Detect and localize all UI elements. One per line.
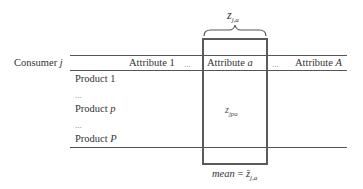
curly-brace-icon xyxy=(203,25,267,37)
row-label-product-1: Product 1 xyxy=(75,73,116,85)
equals-sign: = xyxy=(237,168,243,179)
column-header-ellipsis-2: ... xyxy=(272,58,279,70)
cell-value-label: zjpa xyxy=(225,104,238,120)
row-label-ellipsis-1: ... xyxy=(75,89,82,101)
column-header-attribute-1: Attribute 1 xyxy=(129,57,175,69)
row-label-product-p: Product p xyxy=(75,103,116,115)
consumer-text: Consumer xyxy=(14,57,57,68)
table-bottom-rule xyxy=(70,147,347,148)
attribute-text: Attribute xyxy=(295,57,333,68)
z-subscript: j,a xyxy=(232,16,239,24)
product-text: Product xyxy=(75,73,108,84)
attribute-text: Attribute xyxy=(129,57,167,68)
column-header-attribute-a: Attribute a xyxy=(207,57,253,69)
column-header-ellipsis-1: ... xyxy=(184,58,191,70)
column-header-attribute-A: Attribute A xyxy=(295,57,342,69)
table-header-rule xyxy=(70,70,347,71)
z-subscript: jpa xyxy=(229,110,238,118)
row-label-product-P: Product P xyxy=(75,133,117,145)
attribute-index: a xyxy=(248,57,253,68)
consumer-label: Consumer j xyxy=(14,57,63,69)
attribute-index: A xyxy=(336,57,342,68)
mean-text: mean xyxy=(212,168,235,179)
z-bar-subscript: j,a xyxy=(250,174,257,182)
mean-label: mean = z̄j,a xyxy=(212,168,257,184)
attribute-text: Attribute xyxy=(207,57,245,68)
column-aggregate-label: zj,a xyxy=(227,9,239,26)
attribute-index: 1 xyxy=(170,57,175,68)
product-index: 1 xyxy=(110,73,115,84)
row-label-ellipsis-2: ... xyxy=(75,119,82,131)
consumer-index: j xyxy=(60,57,63,68)
table-top-rule xyxy=(70,55,347,56)
product-text: Product xyxy=(75,103,108,114)
product-index: P xyxy=(110,133,116,144)
product-text: Product xyxy=(75,133,108,144)
product-index: p xyxy=(110,103,115,114)
